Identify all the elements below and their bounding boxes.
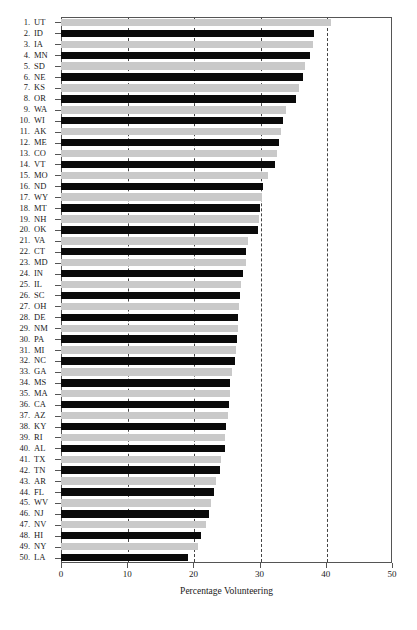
bar-row: [61, 303, 392, 310]
bar-row: [61, 368, 392, 375]
state-abbrev: CT: [34, 246, 53, 257]
bar-wy: [61, 193, 262, 200]
bar-sd: [61, 62, 305, 69]
y-label-pa: 30.PA: [13, 334, 53, 345]
bar-ct: [61, 248, 246, 255]
rank-number: 14.: [13, 159, 30, 170]
bar-ma: [61, 390, 230, 397]
rank-number: 24.: [13, 268, 30, 279]
bar-row: [61, 357, 392, 364]
bar-row: [61, 106, 392, 113]
y-label-mn: 4.MN: [13, 50, 53, 61]
x-tick-label-20: 20: [178, 569, 208, 580]
bar-row: [61, 401, 392, 408]
bar-nc: [61, 357, 235, 364]
state-abbrev: KY: [34, 421, 53, 432]
rank-number: 30.: [13, 334, 30, 345]
state-abbrev: KS: [34, 82, 53, 93]
state-abbrev: IL: [34, 279, 53, 290]
rank-number: 13.: [13, 148, 30, 159]
bar-row: [61, 41, 392, 48]
bar-ak: [61, 128, 281, 135]
y-label-nc: 32.NC: [13, 355, 53, 366]
bar-wi: [61, 117, 283, 124]
bar-pa: [61, 335, 237, 342]
y-label-ia: 3.IA: [13, 39, 53, 50]
y-label-mo: 15.MO: [13, 170, 53, 181]
state-abbrev: TN: [34, 465, 53, 476]
rank-number: 4.: [13, 50, 30, 61]
rank-number: 23.: [13, 257, 30, 268]
bar-wa: [61, 106, 286, 113]
state-abbrev: OK: [34, 224, 53, 235]
bar-oh: [61, 303, 239, 310]
bar-ok: [61, 226, 258, 233]
state-abbrev: NH: [34, 214, 53, 225]
bar-ri: [61, 434, 225, 441]
y-label-ca: 36.CA: [13, 399, 53, 410]
bar-row: [61, 325, 392, 332]
bar-ga: [61, 368, 232, 375]
bar-row: [61, 314, 392, 321]
x-axis-title: Percentage Volunteering: [61, 586, 392, 596]
rank-number: 8.: [13, 93, 30, 104]
bar-row: [61, 128, 392, 135]
bar-row: [61, 84, 392, 91]
y-label-ma: 35.MA: [13, 388, 53, 399]
state-abbrev: IA: [34, 39, 53, 50]
rank-number: 31.: [13, 345, 30, 356]
y-label-id: 2.ID: [13, 28, 53, 39]
rank-number: 47.: [13, 519, 30, 530]
y-axis-labels: 1.UT2.ID3.IA4.MN5.SD6.NE7.KS8.OR9.WA10.W…: [0, 17, 61, 563]
bar-nm: [61, 325, 238, 332]
rank-number: 1.: [13, 17, 30, 28]
state-abbrev: SD: [34, 61, 53, 72]
rank-number: 25.: [13, 279, 30, 290]
rank-number: 45.: [13, 497, 30, 508]
y-label-nj: 46.NJ: [13, 508, 53, 519]
bar-mt: [61, 204, 260, 211]
bar-row: [61, 204, 392, 211]
y-label-sc: 26.SC: [13, 290, 53, 301]
bars-container: [61, 17, 392, 563]
bar-row: [61, 139, 392, 146]
y-label-co: 13.CO: [13, 148, 53, 159]
y-label-in: 24.IN: [13, 268, 53, 279]
bar-row: [61, 456, 392, 463]
state-abbrev: MT: [34, 203, 53, 214]
bar-de: [61, 314, 238, 321]
state-abbrev: NY: [34, 541, 53, 552]
bar-row: [61, 30, 392, 37]
bar-in: [61, 270, 243, 277]
y-label-ut: 1.UT: [13, 17, 53, 28]
state-abbrev: AR: [34, 476, 53, 487]
y-label-hi: 48.HI: [13, 530, 53, 541]
rank-number: 48.: [13, 530, 30, 541]
rank-number: 37.: [13, 410, 30, 421]
bar-row: [61, 423, 392, 430]
x-tick-label-30: 30: [245, 569, 275, 580]
bar-ut: [61, 19, 331, 26]
bar-row: [61, 434, 392, 441]
y-label-ks: 7.KS: [13, 82, 53, 93]
bar-row: [61, 52, 392, 59]
state-abbrev: VT: [34, 159, 53, 170]
bar-row: [61, 248, 392, 255]
bar-row: [61, 193, 392, 200]
bar-hi: [61, 532, 201, 539]
bar-fl: [61, 488, 214, 495]
state-abbrev: MO: [34, 170, 53, 181]
state-abbrev: GA: [34, 366, 53, 377]
y-label-or: 8.OR: [13, 93, 53, 104]
bar-vt: [61, 161, 275, 168]
y-label-la: 50.LA: [13, 552, 53, 563]
bar-mn: [61, 52, 310, 59]
bar-sc: [61, 292, 240, 299]
rank-number: 22.: [13, 246, 30, 257]
bar-row: [61, 161, 392, 168]
bar-row: [61, 62, 392, 69]
bar-nd: [61, 183, 263, 190]
rank-number: 16.: [13, 181, 30, 192]
bar-al: [61, 445, 225, 452]
state-abbrev: NM: [34, 323, 53, 334]
